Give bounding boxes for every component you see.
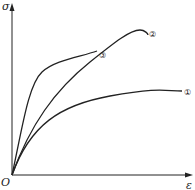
- curve-2: [12, 30, 148, 175]
- origin-label: O: [1, 176, 10, 189]
- curve-2-label: ②: [149, 30, 156, 39]
- x-axis-label: ε: [186, 179, 192, 190]
- x-axis-arrow-icon: [185, 173, 193, 178]
- curve-1: [12, 90, 182, 175]
- y-axis-label: σ: [2, 0, 10, 13]
- curve-3-label: ③: [99, 51, 106, 60]
- y-axis-arrow-icon: [10, 3, 15, 11]
- stress-strain-chart: σ ε O ① ② ③: [0, 0, 195, 190]
- curve-3: [12, 51, 97, 175]
- curve-1-label: ①: [184, 88, 191, 97]
